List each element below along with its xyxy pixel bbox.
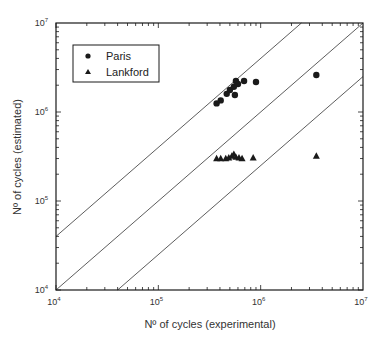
x-tick-label: 105 xyxy=(150,296,164,307)
reference-line xyxy=(118,77,363,290)
paris-point-circle-icon xyxy=(218,97,224,103)
y-tick-label: 105 xyxy=(35,195,49,206)
x-tick-labels: 104105106107 xyxy=(47,296,368,307)
legend: Paris Lankford xyxy=(73,45,159,82)
paris-point-circle-icon xyxy=(313,72,319,78)
x-axis-title: Nº of cycles (experimental) xyxy=(144,318,275,330)
x-tick-label: 107 xyxy=(354,296,368,307)
y-tick-label: 107 xyxy=(35,17,49,28)
x-tick-label: 104 xyxy=(47,296,61,307)
x-tick-label: 106 xyxy=(252,296,266,307)
paris-point-circle-icon xyxy=(253,79,259,85)
paris-point-circle-icon xyxy=(232,92,238,98)
lankford-point-triangle-icon xyxy=(250,154,257,160)
legend-circle-icon xyxy=(85,53,90,58)
lankford-point-triangle-icon xyxy=(313,152,320,158)
data-points xyxy=(213,72,320,161)
paris-point-circle-icon xyxy=(241,78,247,84)
chart: 104105106107 104105106107 Nº of cycles (… xyxy=(0,0,390,349)
y-tick-labels: 104105106107 xyxy=(35,17,49,295)
legend-label-paris: Paris xyxy=(106,50,132,62)
y-tick-label: 106 xyxy=(35,106,49,117)
y-axis-title: Nº of cycles (estimated) xyxy=(11,99,23,215)
legend-label-lankford: Lankford xyxy=(106,66,149,78)
y-tick-label: 104 xyxy=(35,284,49,295)
paris-point-circle-icon xyxy=(235,81,241,87)
